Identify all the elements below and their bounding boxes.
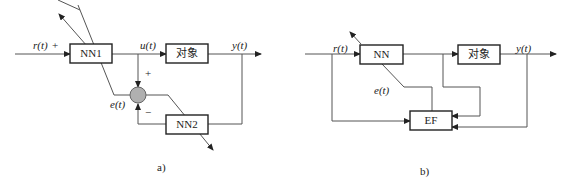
input-sign-label-a: + [52,40,58,51]
input-signal-label-a: r(t) [33,40,48,51]
error-signal-label-b: e(t) [374,85,389,96]
diagram-lines [0,0,565,188]
plus-sign: + [145,68,151,79]
diagram-a-wires [15,0,261,150]
caption-b: b) [420,165,429,177]
summing-junction [130,87,146,103]
control-signal-label: u(t) [140,40,156,51]
plant-b-block: 对象 [458,45,500,64]
error-signal-label-a: e(t) [110,99,125,110]
input-signal-label-b: r(t) [333,43,348,54]
output-signal-label-b: y(t) [516,43,531,54]
nn-block: NN [360,45,403,64]
minus-sign: − [145,107,151,118]
output-signal-label-a: y(t) [232,40,247,51]
nn1-block: NN1 [70,44,112,63]
diagram-canvas: NN1 对象 NN2 r(t) + u(t) y(t) e(t) + − a) … [0,0,565,188]
caption-a: a) [157,161,166,173]
plant-a-block: 对象 [166,44,208,63]
nn2-block: NN2 [166,115,208,134]
ef-block: EF [410,111,452,130]
